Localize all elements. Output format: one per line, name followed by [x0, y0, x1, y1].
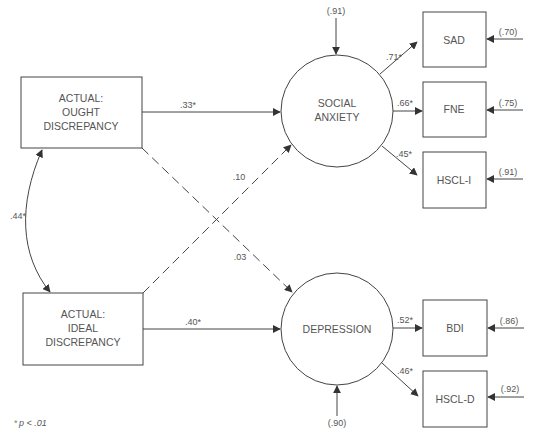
- hscl-d-label: HSCL-D: [435, 393, 475, 405]
- ideal-label-line-2: IDEAL: [68, 322, 99, 334]
- hscl-d-loading: .46*: [397, 366, 414, 376]
- fne-loading: .66*: [397, 98, 414, 108]
- path-ideal-to-social-anxiety: .10: [143, 145, 291, 293]
- ought-label-line-1: ACTUAL:: [59, 92, 103, 104]
- correlation-coef: .44*: [10, 211, 27, 221]
- indicator-fne: FNE .66* (.75): [393, 82, 523, 137]
- ideal-discrepancy-node: ACTUAL: IDEAL DISCREPANCY: [23, 293, 143, 365]
- sad-loading: .71*: [386, 52, 403, 62]
- ought-label-line-2: OUGHT: [62, 106, 101, 118]
- ought-discrepancy-node: ACTUAL: OUGHT DISCREPANCY: [21, 77, 142, 148]
- fne-error: (.75): [499, 98, 518, 108]
- coef-ideal-social-anxiety: .10: [233, 172, 246, 182]
- hscl-i-label: HSCL-I: [437, 174, 471, 186]
- sad-error: (.70): [499, 27, 518, 37]
- social-anxiety-label-line-2: ANXIETY: [315, 111, 360, 123]
- indicator-hscl-d: HSCL-D .46* (.92): [382, 363, 524, 427]
- depression-disturbance: (.90): [328, 418, 347, 428]
- path-ought-to-social-anxiety: .33*: [142, 100, 280, 112]
- sem-path-diagram: ACTUAL: OUGHT DISCREPANCY ACTUAL: IDEAL …: [0, 0, 536, 438]
- bdi-error: (.86): [500, 316, 519, 326]
- path-ideal-to-depression: .40*: [143, 317, 280, 329]
- bdi-loading: .52*: [397, 315, 414, 325]
- note-text: p < .01: [18, 418, 47, 428]
- correlation-arc: .44*: [10, 150, 50, 292]
- ideal-label-line-3: DISCREPANCY: [45, 336, 120, 348]
- coef-ideal-depression: .40*: [185, 317, 202, 327]
- indicator-bdi: BDI .52* (.86): [393, 300, 524, 356]
- ought-label-line-3: DISCREPANCY: [43, 120, 118, 132]
- path-ought-to-depression: .03: [142, 148, 292, 292]
- sad-label: SAD: [443, 34, 465, 46]
- social-anxiety-disturbance: (.91): [327, 6, 346, 16]
- coef-ought-depression: .03: [234, 252, 247, 262]
- indicator-sad: SAD .71* (.70): [380, 12, 523, 74]
- ideal-label-line-1: ACTUAL:: [61, 308, 105, 320]
- social-anxiety-factor: SOCIAL ANXIETY (.91): [281, 6, 393, 167]
- depression-factor: DEPRESSION (.90): [281, 273, 393, 428]
- fne-label: FNE: [444, 103, 465, 115]
- bdi-label: BDI: [446, 322, 464, 334]
- indicator-hscl-i: HSCL-I .45* (.91): [382, 146, 523, 208]
- hscl-i-error: (.91): [499, 167, 518, 177]
- hscl-d-error: (.92): [501, 384, 520, 394]
- social-anxiety-label-line-1: SOCIAL: [318, 97, 357, 109]
- depression-label: DEPRESSION: [303, 323, 372, 335]
- note-asterisk: *: [14, 418, 18, 428]
- coef-ought-social-anxiety: .33*: [180, 100, 197, 110]
- hscl-i-loading: .45*: [396, 149, 413, 159]
- significance-note: * p < .01: [14, 418, 47, 428]
